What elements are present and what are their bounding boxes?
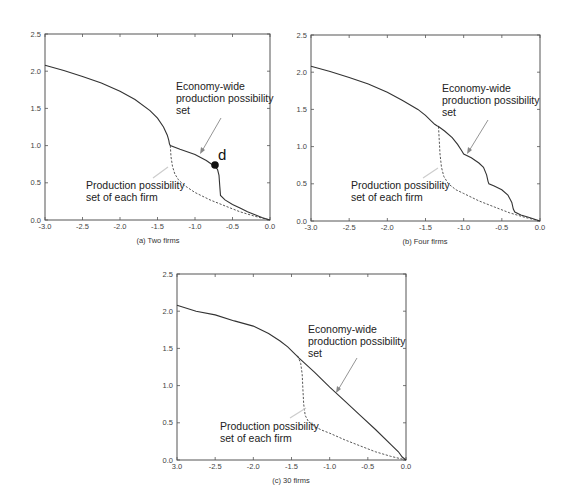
economy-wide-label-line3: set — [176, 104, 190, 116]
y-tick-label: 2.0 — [163, 307, 173, 316]
each-firm-label-line1: Production possibility — [86, 179, 185, 191]
y-tick-label: 0.0 — [31, 216, 41, 225]
x-tick-label: 0.0 — [401, 462, 411, 471]
figure-canvas: -3.0-2.5-2.0-1.5-1.0-0.50.0 0.00.51.01.5… — [0, 0, 576, 504]
y-tick-label: 0.5 — [297, 179, 307, 188]
y-tick-label: 0.0 — [163, 456, 173, 465]
economy-wide-label-line3: set — [442, 106, 456, 118]
x-axis-tick-labels: -3.0-2.5-2.0-1.5-1.0-0.50.0 — [39, 222, 276, 231]
x-axis-tick-labels: 3.0-2.5-2.0-1.5-1.0-0.50.0 — [172, 462, 411, 471]
x-tick-label: -1.0 — [323, 462, 336, 471]
each-firm-arrow — [290, 408, 306, 418]
y-axis-tick-labels: 0.00.51.01.52.02.5 — [297, 31, 307, 226]
panel-caption: (b) Four firms — [403, 237, 448, 246]
panel-caption: (c) 30 firms — [272, 476, 310, 485]
y-tick-label: 1.0 — [31, 141, 41, 150]
x-tick-label: -2.5 — [76, 222, 89, 231]
x-tick-label: -1.5 — [285, 462, 298, 471]
panel-four-firms: -3.0-2.5-2.0-1.5-1.0-0.50.0 0.00.51.01.5… — [297, 31, 546, 247]
y-tick-label: 2.0 — [297, 68, 307, 77]
y-tick-label: 1.0 — [163, 381, 173, 390]
x-tick-label: -1.0 — [189, 222, 202, 231]
economy-wide-label-line2: production possibility — [308, 335, 406, 347]
x-tick-label: 0.0 — [535, 223, 545, 232]
x-tick-label: -2.0 — [381, 223, 394, 232]
x-tick-label: -2.0 — [114, 222, 127, 231]
economy-wide-label-line1: Economy-wide — [442, 82, 511, 94]
each-firm-label-line2: set of each firm — [86, 191, 158, 203]
x-tick-label: -0.5 — [361, 462, 374, 471]
each-firm-pps-curve — [439, 127, 541, 222]
y-tick-label: 1.5 — [163, 344, 173, 353]
panel-two-firms: -3.0-2.5-2.0-1.5-1.0-0.50.0 0.00.51.01.5… — [31, 30, 276, 246]
x-axis-tick-labels: -3.0-2.5-2.0-1.5-1.0-0.50.0 — [305, 223, 546, 232]
each-firm-label-line1: Production possibility — [351, 179, 450, 191]
panel-caption: (a) Two firms — [136, 236, 179, 245]
economy-wide-label-line3: set — [308, 347, 322, 359]
each-firm-label-line2: set of each firm — [351, 191, 423, 203]
economy-wide-label-line1: Economy-wide — [176, 80, 245, 92]
y-tick-label: 1.5 — [297, 105, 307, 114]
y-tick-label: 2.5 — [31, 30, 41, 39]
y-tick-label: 1.5 — [31, 104, 41, 113]
y-tick-label: 0.0 — [297, 217, 307, 226]
x-tick-label: -0.5 — [226, 222, 239, 231]
economy-wide-label-line2: production possibility — [442, 94, 540, 106]
x-tick-label: -1.0 — [457, 223, 470, 232]
economy-wide-arrow — [338, 358, 357, 390]
point-d-label: d — [218, 146, 226, 163]
economy-wide-label-line1: Economy-wide — [308, 323, 377, 335]
y-tick-label: 2.5 — [297, 31, 307, 40]
each-firm-label-line1: Production possibility — [220, 420, 319, 432]
y-tick-label: 1.0 — [297, 142, 307, 151]
x-tick-label: -1.5 — [151, 222, 164, 231]
x-tick-label: 0.0 — [265, 222, 275, 231]
x-tick-label: -2.5 — [209, 462, 222, 471]
economy-wide-arrowhead-icon — [200, 147, 205, 154]
x-tick-label: -1.5 — [419, 223, 432, 232]
y-axis-tick-labels: 0.00.51.01.52.02.5 — [163, 270, 173, 465]
x-tick-label: 3.0 — [172, 462, 182, 471]
x-tick-label: -2.0 — [247, 462, 260, 471]
panel-30-firms: 3.0-2.5-2.0-1.5-1.0-0.50.0 0.00.51.01.52… — [163, 270, 412, 486]
economy-wide-arrow — [469, 120, 488, 151]
y-tick-label: 2.0 — [31, 67, 41, 76]
each-firm-label-line2: set of each firm — [220, 432, 292, 444]
economy-wide-label-line2: production possibility — [176, 92, 274, 104]
each-firm-arrow — [153, 167, 168, 178]
y-tick-label: 0.5 — [31, 178, 41, 187]
y-tick-label: 0.5 — [163, 418, 173, 427]
each-firm-arrow — [423, 168, 438, 178]
y-tick-label: 2.5 — [163, 270, 173, 279]
x-tick-label: -2.5 — [343, 223, 356, 232]
x-tick-label: -0.5 — [495, 223, 508, 232]
y-axis-tick-labels: 0.00.51.01.52.02.5 — [31, 30, 41, 225]
